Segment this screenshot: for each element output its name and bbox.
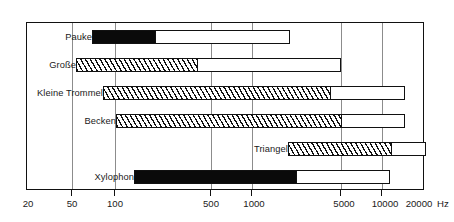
bar-label-kleine-trommel: Kleine Trommel (37, 88, 104, 98)
bar-segment-overtone-becken (342, 115, 404, 127)
bar-segment-overtone-xylophon (297, 171, 389, 183)
gridline-5000 (341, 23, 342, 189)
tick-mark-500 (210, 190, 211, 196)
bar-kleine-trommel[interactable]: Kleine Trommel (103, 86, 405, 100)
bar-xylophon[interactable]: Xylophon (134, 170, 390, 184)
x-axis-unit-label: Hz (437, 198, 449, 209)
bar-row-becken: Becken (0, 114, 454, 128)
tick-mark-50 (71, 190, 72, 196)
tick-label-50: 50 (67, 198, 78, 209)
tick-mark-5000 (340, 190, 341, 196)
gridline-10000 (382, 23, 383, 189)
bar-pauke[interactable]: Pauke (92, 30, 290, 44)
bar-segment-fundamental-pauke (93, 31, 156, 43)
bar-segment-overtone-pauke (156, 31, 289, 43)
bar-label-triangel: Triangel (254, 144, 289, 154)
gridline-100 (115, 23, 116, 189)
gridline-500 (211, 23, 212, 189)
bar-grosse[interactable]: Große (76, 58, 341, 72)
bar-row-triangel: Triangel (0, 142, 454, 156)
bar-row-pauke: Pauke (0, 30, 454, 44)
tick-label-100: 100 (107, 198, 123, 209)
bar-triangel[interactable]: Triangel (288, 142, 426, 156)
bar-label-grosse: Große (49, 60, 77, 70)
tick-mark-100 (114, 190, 115, 196)
bar-segment-fundamental-triangel (289, 143, 392, 155)
plot-area (26, 22, 424, 190)
bar-row-xylophon: Xylophon (0, 170, 454, 184)
tick-label-5000: 5000 (333, 198, 354, 209)
tick-mark-10000 (381, 190, 382, 196)
bar-segment-fundamental-kleine-trommel (104, 87, 331, 99)
tick-label-10000: 10000 (372, 198, 399, 209)
bar-becken[interactable]: Becken (116, 114, 405, 128)
bar-label-pauke: Pauke (65, 32, 93, 42)
bar-row-kleine-trommel: Kleine Trommel (0, 86, 454, 100)
bar-segment-overtone-kleine-trommel (331, 87, 404, 99)
frequency-range-chart: Pauke Große Kleine Trommel Becken Triang (0, 0, 454, 222)
bar-label-xylophon: Xylophon (94, 172, 135, 182)
tick-mark-1000 (251, 190, 252, 196)
bar-row-grosse: Große (0, 58, 454, 72)
tick-label-500: 500 (203, 198, 219, 209)
bar-segment-overtone-triangel (392, 143, 425, 155)
x-axis-tick-labels: 20 50 100 500 1000 5000 10000 20000 Hz (0, 198, 454, 214)
x-axis-ticks (26, 190, 424, 196)
bar-segment-fundamental-xylophon (135, 171, 297, 183)
gridline-50 (72, 23, 73, 189)
gridline-1000 (252, 23, 253, 189)
bar-segment-overtone-grosse (198, 59, 340, 71)
bar-segment-fundamental-grosse (77, 59, 198, 71)
bar-segment-fundamental-becken (117, 115, 342, 127)
tick-label-1000: 1000 (243, 198, 264, 209)
tick-label-20: 20 (23, 198, 34, 209)
bar-label-becken: Becken (84, 116, 117, 126)
tick-label-20000: 20000 (406, 198, 433, 209)
